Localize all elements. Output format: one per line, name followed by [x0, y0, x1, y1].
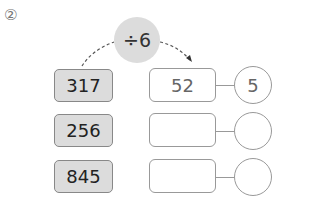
remainder-circle[interactable]: [234, 112, 272, 150]
remainder-circle[interactable]: 5: [234, 66, 272, 104]
dividend-box: 845: [54, 160, 113, 193]
arrowhead-icon: [186, 55, 192, 62]
dividend-box: 317: [54, 69, 113, 102]
operation-circle: ÷6: [114, 17, 160, 63]
connector-line: [216, 177, 234, 178]
connector-line: [216, 85, 234, 86]
quotient-box[interactable]: [149, 159, 216, 193]
dividend-box: 256: [54, 114, 113, 147]
quotient-box[interactable]: [149, 113, 216, 147]
connector-line: [216, 131, 234, 132]
remainder-circle[interactable]: [234, 158, 272, 196]
quotient-box[interactable]: 52: [149, 68, 216, 102]
